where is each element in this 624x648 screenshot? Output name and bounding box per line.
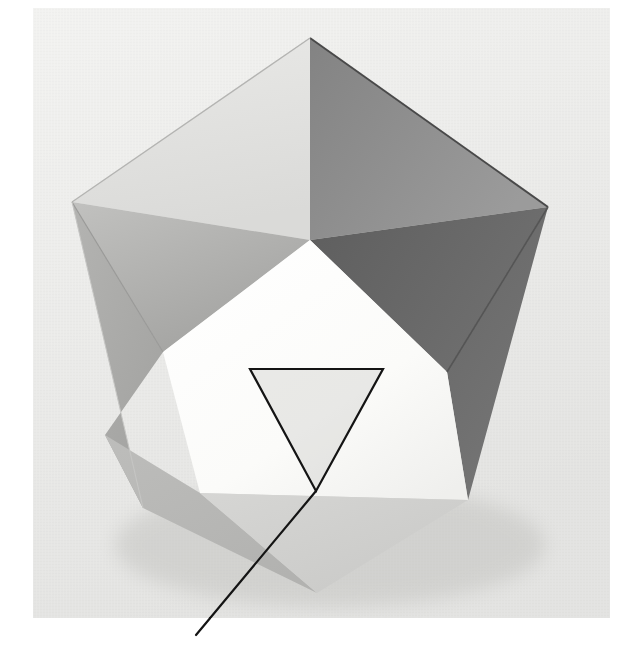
margin-left [0,0,33,648]
photo-area [33,8,610,635]
margin-right [610,0,624,648]
margin-bottom [0,618,624,648]
icosahedron-figure [0,0,624,648]
margin-top [0,0,624,8]
photograph-frame [0,0,624,648]
page-root: Photograph of a white/grey polyhedral mo… [0,0,624,648]
